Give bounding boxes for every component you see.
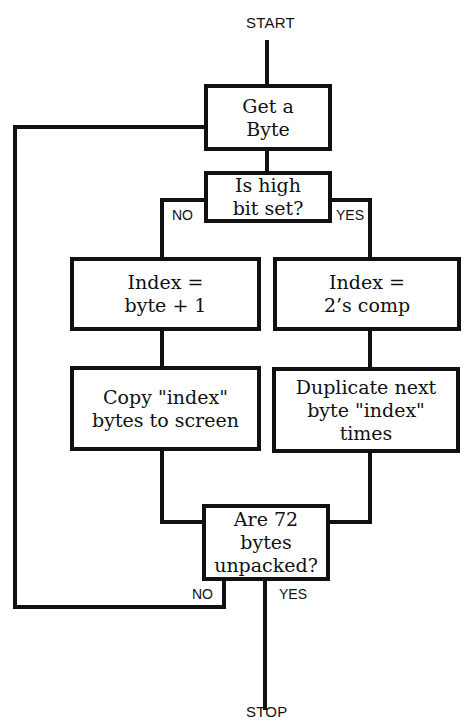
node-index-twos-comp: Index = 2’s comp: [273, 257, 461, 331]
node-bytes-unpacked-line-2: bytes: [240, 531, 292, 554]
edge-high-bit-yes-horizontal: [329, 198, 372, 202]
edge-duplicate-to-unpacked-vertical: [368, 450, 372, 524]
node-get-byte-line-1: Get a: [242, 95, 293, 118]
edge-loop-to-get-byte: [13, 125, 206, 129]
node-copy-bytes-line-2: bytes to screen: [92, 409, 239, 432]
node-high-bit-decision: Is high bit set?: [204, 171, 332, 223]
edge-unpacked-no-bottom: [13, 605, 226, 609]
node-high-bit-line-1: Is high: [235, 174, 301, 197]
node-high-bit-line-2: bit set?: [233, 197, 304, 220]
node-get-byte: Get a Byte: [204, 84, 332, 151]
node-duplicate-byte-line-3: times: [340, 422, 393, 445]
unpacked-no-label: NO: [192, 586, 213, 602]
node-index-twos-comp-line-2: 2’s comp: [324, 294, 410, 317]
edge-loop-left-vertical: [13, 125, 17, 609]
node-duplicate-byte: Duplicate next byte "index" times: [272, 367, 460, 453]
node-get-byte-line-2: Byte: [246, 118, 290, 141]
edge-copy-to-unpacked-horizontal: [160, 520, 205, 524]
edge-high-bit-no-vertical: [160, 198, 164, 259]
node-index-plus-one: Index = byte + 1: [70, 257, 261, 331]
node-bytes-unpacked-line-1: Are 72: [234, 508, 298, 531]
node-duplicate-byte-line-2: byte "index": [307, 399, 425, 422]
node-index-plus-one-line-1: Index =: [128, 271, 204, 294]
node-copy-bytes: Copy "index" bytes to screen: [70, 366, 261, 451]
node-duplicate-byte-line-1: Duplicate next: [296, 376, 437, 399]
node-index-twos-comp-line-1: Index =: [329, 271, 405, 294]
node-index-plus-one-line-2: byte + 1: [125, 294, 207, 317]
high-bit-no-label: NO: [172, 207, 193, 223]
edge-high-bit-no-horizontal: [160, 198, 206, 202]
edge-index-plus-one-to-copy: [160, 328, 164, 368]
edge-high-bit-yes-vertical: [368, 198, 372, 260]
edge-duplicate-to-unpacked-horizontal: [327, 520, 372, 524]
edge-copy-to-unpacked-vertical: [160, 448, 164, 524]
edge-twos-comp-to-duplicate: [368, 328, 372, 369]
start-label: START: [246, 14, 295, 31]
unpacked-yes-label: YES: [279, 586, 307, 602]
high-bit-yes-label: YES: [336, 207, 364, 223]
node-bytes-unpacked-decision: Are 72 bytes unpacked?: [202, 504, 330, 581]
node-bytes-unpacked-line-3: unpacked?: [214, 554, 318, 577]
node-copy-bytes-line-1: Copy "index": [103, 386, 228, 409]
edge-start-to-get-byte: [265, 40, 269, 86]
edge-unpacked-yes-to-stop: [263, 578, 267, 710]
